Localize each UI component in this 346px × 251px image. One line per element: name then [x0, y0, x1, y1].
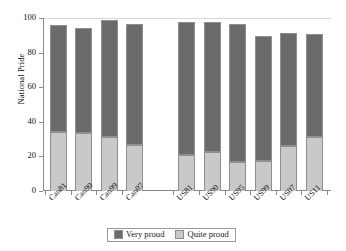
bar-can99 — [101, 20, 118, 191]
bar-us99 — [255, 36, 272, 191]
y-axis-tick-label: 20 — [28, 150, 37, 160]
bar-segment-very-proud — [126, 24, 143, 145]
x-axis-tick-mark — [173, 191, 174, 195]
x-axis-tick-mark — [45, 191, 46, 195]
bars-layer — [43, 18, 331, 191]
y-axis-tick-label: 80 — [28, 47, 37, 57]
bar-segment-very-proud — [229, 24, 246, 162]
bar-us11 — [306, 34, 323, 191]
y-axis-tick-label: 0 — [32, 185, 36, 195]
x-axis-tick-mark — [225, 191, 226, 195]
y-axis-tick-label: 60 — [28, 81, 37, 91]
bar-us95 — [229, 24, 246, 191]
bar-segment-very-proud — [101, 20, 118, 137]
bar-can90 — [75, 28, 92, 191]
bar-segment-very-proud — [306, 34, 323, 137]
x-axis-tick-mark — [327, 191, 328, 195]
bar-segment-very-proud — [178, 22, 195, 154]
x-axis-tick-mark — [199, 191, 200, 195]
legend-swatch-icon — [114, 230, 123, 239]
x-axis-tick-mark — [301, 191, 302, 195]
bar-us81 — [178, 22, 195, 191]
y-axis-title: National Pride — [16, 24, 26, 134]
bar-segment-very-proud — [280, 33, 297, 146]
legend-label: Quite proud — [187, 230, 228, 239]
legend-label: Very proud — [126, 230, 164, 239]
legend-item: Very proud — [114, 230, 164, 239]
stacked-bar-chart: National Pride 020406080100 Can81Can90Ca… — [0, 0, 346, 251]
x-axis-tick-mark — [250, 191, 251, 195]
x-axis-tick-mark — [276, 191, 277, 195]
bar-segment-very-proud — [255, 36, 272, 161]
bar-us90 — [204, 22, 221, 191]
legend-swatch-icon — [175, 230, 184, 239]
bar-us07 — [280, 33, 297, 191]
bar-segment-very-proud — [50, 25, 67, 132]
legend: Very proudQuite proud — [107, 228, 236, 242]
x-axis-tick-mark — [71, 191, 72, 195]
y-axis-tick-mark — [39, 191, 43, 192]
x-axis-tick-mark — [96, 191, 97, 195]
bar-segment-very-proud — [75, 28, 92, 133]
y-axis-tick-label: 100 — [23, 12, 36, 22]
bar-can81 — [50, 25, 67, 191]
x-axis-tick-mark — [122, 191, 123, 195]
bar-segment-very-proud — [204, 22, 221, 152]
y-axis-tick-label: 40 — [28, 116, 37, 126]
bar-can07 — [126, 24, 143, 191]
legend-item: Quite proud — [175, 230, 228, 239]
